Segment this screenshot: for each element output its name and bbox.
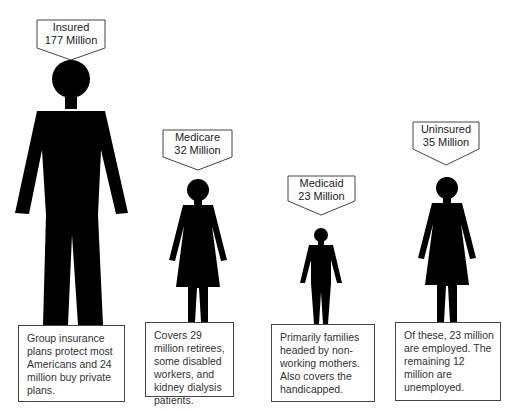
- uninsured-label: Uninsured 35 Million: [413, 123, 479, 149]
- medicare-count: 32 Million: [163, 144, 232, 157]
- medicare-label: Medicare 32 Million: [163, 131, 232, 157]
- medicaid-child-icon: [300, 228, 342, 324]
- uninsured-title: Uninsured: [413, 123, 479, 136]
- medicare-woman-icon: [169, 179, 227, 322]
- medicaid-count: 23 Million: [288, 190, 355, 203]
- insured-label: Insured 177 Million: [37, 21, 105, 47]
- medicaid-title: Medicaid: [288, 177, 355, 190]
- medicaid-description: Primarily families headed by non-working…: [271, 324, 375, 402]
- uninsured-woman-icon: [418, 177, 476, 322]
- medicaid-label: Medicaid 23 Million: [288, 177, 355, 203]
- insured-man-icon: [15, 60, 128, 325]
- uninsured-description: Of these, 23 million are employed. The r…: [395, 322, 501, 401]
- medicare-title: Medicare: [163, 131, 232, 144]
- insured-count: 177 Million: [37, 34, 105, 47]
- uninsured-count: 35 Million: [413, 136, 479, 149]
- insured-description: Group insurance plans protect most Ameri…: [18, 325, 125, 402]
- insured-title: Insured: [37, 21, 105, 34]
- medicare-description: Covers 29 million retirees, some disable…: [145, 322, 234, 397]
